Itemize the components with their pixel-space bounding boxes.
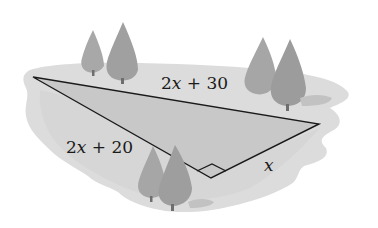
tree-trunk <box>92 70 95 76</box>
right-leg-label: x <box>264 155 274 175</box>
tree-trunk <box>286 104 289 111</box>
left-leg-label: 2x + 20 <box>66 137 133 157</box>
tree-trunk <box>150 196 153 202</box>
tree-trunk <box>171 204 174 211</box>
tree-trunk <box>121 78 124 84</box>
hypotenuse-label: 2x + 30 <box>161 73 228 93</box>
tree-icon <box>271 39 306 106</box>
tree-icon <box>106 22 138 81</box>
tree-icon <box>81 30 104 73</box>
triangle-diagram: 2x + 30 2x + 20 x <box>0 0 378 228</box>
